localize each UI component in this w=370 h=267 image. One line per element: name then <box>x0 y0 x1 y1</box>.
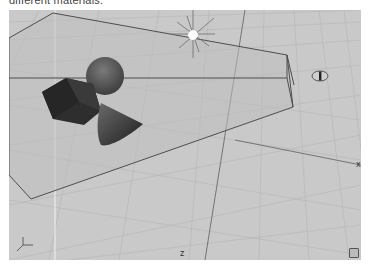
caption-text: different materials. <box>9 0 103 6</box>
axis-gizmo-icon <box>17 237 33 251</box>
camera-eye-icon[interactable] <box>312 71 328 81</box>
3d-viewport[interactable]: x z <box>9 10 361 260</box>
axis-label-z: z <box>180 249 184 258</box>
viewport-maximize-button[interactable] <box>349 248 359 258</box>
viewport-scene[interactable] <box>9 10 361 260</box>
axis-label-x: x <box>356 160 361 169</box>
